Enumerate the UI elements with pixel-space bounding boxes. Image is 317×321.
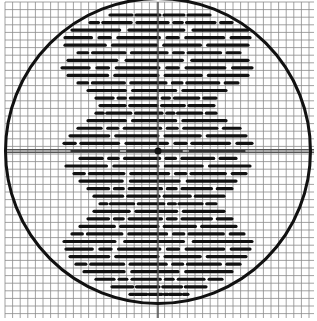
center-dot bbox=[155, 148, 162, 155]
circular-dash-pattern-diagram bbox=[0, 0, 317, 321]
